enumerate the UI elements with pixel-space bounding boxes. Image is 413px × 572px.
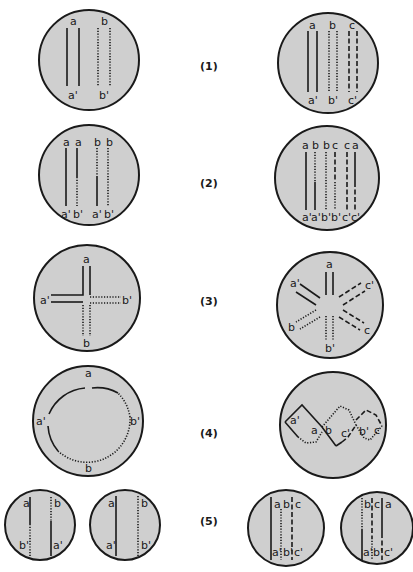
row-1-right-cell: a b c a' b' c' xyxy=(278,13,378,113)
label-a: a xyxy=(23,497,30,510)
label-b: b xyxy=(94,136,101,149)
label-a-prime: a' xyxy=(290,414,300,427)
label-a: a xyxy=(274,498,281,511)
label-c-prime: c' xyxy=(384,546,393,559)
label-a: a xyxy=(83,253,90,266)
label-b-prime: b' xyxy=(321,211,331,224)
row-label-3: (3) xyxy=(200,295,218,308)
label-a: a xyxy=(302,139,309,152)
label-b: b xyxy=(106,136,113,149)
label-b: b xyxy=(85,462,92,475)
label-b: b xyxy=(141,497,148,510)
label-b-prime: b' xyxy=(325,342,335,355)
label-c: c xyxy=(374,424,380,437)
label-a-prime: a' xyxy=(311,211,321,224)
label-b: b xyxy=(325,424,332,437)
label-b: b xyxy=(54,497,61,510)
row-4-right-cell: a' a b c' b' c xyxy=(280,372,386,478)
label-a-prime: a' xyxy=(106,539,116,552)
label-c: c xyxy=(332,139,338,152)
label-b: b xyxy=(83,337,90,350)
label-b-prime: b' xyxy=(19,539,29,552)
label-a-prime: a' xyxy=(92,208,102,221)
label-b: b xyxy=(329,19,336,32)
label-a-prime: a' xyxy=(272,546,282,559)
row-5-cell-1: a b b' a' xyxy=(5,490,75,560)
label-c-prime: c' xyxy=(342,211,351,224)
label-c: c xyxy=(349,19,355,32)
row-label-4: (4) xyxy=(200,427,218,440)
row-5-cell-2: a b a' b' xyxy=(90,490,160,560)
label-b: b xyxy=(288,321,295,334)
label-a-prime: a' xyxy=(61,208,71,221)
label-b-prime: b' xyxy=(141,539,151,552)
label-a: a xyxy=(385,498,392,511)
label-b-prime: b' xyxy=(331,211,341,224)
label-b-prime: b' xyxy=(328,94,338,107)
row-label-5: (5) xyxy=(200,515,218,528)
label-b-prime: b' xyxy=(122,294,132,307)
label-a-prime: a' xyxy=(308,94,318,107)
label-a: a xyxy=(326,258,333,271)
row-label-1: (1) xyxy=(200,60,218,73)
label-c-prime: c' xyxy=(341,427,350,440)
label-b-prime: b' xyxy=(373,546,383,559)
translocation-diagram: a b a' b' (1) a b c a' b' c' a a b b xyxy=(0,0,413,572)
row-5-cell-3: a b c a' b' c' xyxy=(248,490,324,566)
label-a-prime: a' xyxy=(53,539,63,552)
label-b: b xyxy=(101,15,108,28)
label-c: c xyxy=(295,498,301,511)
row-1-left-cell: a b a' b' xyxy=(39,10,139,110)
label-a-prime: a' xyxy=(363,546,373,559)
row-2-left-cell: a a b b a' b' a' b' xyxy=(39,125,139,225)
label-b: b xyxy=(283,498,290,511)
label-a-prime: a' xyxy=(68,89,78,102)
diagram-canvas: a b a' b' (1) a b c a' b' c' a a b b xyxy=(0,0,413,572)
label-a: a xyxy=(108,497,115,510)
label-c-prime: c' xyxy=(351,211,360,224)
label-b-prime: b' xyxy=(359,425,369,438)
row-3-left-cell: a b' b a' xyxy=(34,245,140,351)
label-b: b xyxy=(323,139,330,152)
label-c-prime: c' xyxy=(365,279,374,292)
row-5-cell-4: b c a a' b' c' xyxy=(341,492,413,564)
row-3-right-cell: a c' c b' b a' xyxy=(277,252,383,358)
label-a: a xyxy=(85,367,92,380)
label-b-prime: b' xyxy=(104,208,114,221)
label-a: a xyxy=(309,19,316,32)
label-b-prime: b' xyxy=(130,415,140,428)
label-c: c xyxy=(344,139,350,152)
label-a-prime: a' xyxy=(36,415,46,428)
label-b: b xyxy=(364,498,371,511)
label-c-prime: c' xyxy=(294,546,303,559)
label-c-prime: c' xyxy=(348,94,357,107)
row-2-right-cell: a b b c c a a' a' b' b' c' c' xyxy=(275,126,379,230)
label-a: a xyxy=(70,15,77,28)
label-a: a xyxy=(63,136,70,149)
label-a: a xyxy=(311,424,318,437)
label-a: a xyxy=(352,139,359,152)
row-label-2: (2) xyxy=(200,177,218,190)
label-c: c xyxy=(374,498,380,511)
label-c: c xyxy=(364,324,370,337)
label-a-prime: a' xyxy=(40,294,50,307)
label-b-prime: b' xyxy=(99,89,109,102)
label-b: b xyxy=(312,139,319,152)
label-b-prime: b' xyxy=(73,208,83,221)
row-4-left-cell: a b' b a' xyxy=(33,366,143,476)
label-a: a xyxy=(75,136,82,149)
label-b-prime: b' xyxy=(283,546,293,559)
label-a-prime: a' xyxy=(290,277,300,290)
